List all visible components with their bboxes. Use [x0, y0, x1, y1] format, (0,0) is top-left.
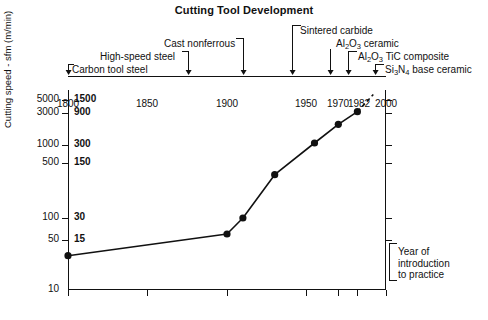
x-label-1982: 1982: [348, 98, 370, 109]
leader-stem-cast-nonferrous: [243, 38, 244, 70]
x-label-1970: 1970: [327, 98, 349, 109]
y-axis-title: Cutting speed - sfm (m/min): [2, 0, 13, 128]
chart-title: Cutting Tool Development: [0, 4, 488, 16]
y-tick-right-1000: [386, 145, 392, 146]
callout-al2o3-tic-o: O: [371, 51, 379, 62]
y-label-mmin-150: 150: [74, 156, 91, 167]
x-axis-note-line-3: to practice: [398, 269, 450, 281]
y-tick-3000: [62, 113, 68, 114]
arrow-cast-nonferrous: [241, 70, 247, 75]
arrow-sintered-carbide: [290, 70, 296, 75]
leader-stem-al2o3-tic: [348, 51, 349, 70]
x-tick-1800: [68, 290, 69, 296]
callout-al2o3-ceramic-o: O: [349, 38, 357, 49]
callout-al2o3-tic-composite: Al2O3 TiC composite: [358, 51, 449, 63]
chart-figure: Cutting Tool Development Carbon tool ste…: [0, 0, 488, 320]
subscript-two: 2: [345, 42, 349, 51]
x-label-1900: 1900: [216, 98, 238, 109]
annotation-axis-line: [68, 76, 386, 77]
y-tick-right-100: [386, 218, 392, 219]
callout-si3n4-base-ceramic: Si3N4 base ceramic: [385, 64, 472, 76]
x-tick-1982: [357, 290, 358, 296]
y-tick-right-3000: [386, 113, 392, 114]
y-label-mmin-30: 30: [74, 211, 85, 222]
y-tick-right-50: [386, 240, 392, 241]
x-label-1800: 1800: [57, 98, 79, 109]
subscript-four: 4: [405, 68, 409, 77]
callout-high-speed-steel: High-speed steel: [100, 51, 175, 62]
leader-elbow-al2o3-tic: [348, 51, 357, 52]
callout-al2o3-tic-end: TiC composite: [383, 51, 449, 62]
x-axis-note-bracket: [389, 243, 397, 281]
callout-cast-nonferrous-text: Cast nonferrous: [164, 38, 235, 49]
leader-stem-high-speed-steel: [188, 51, 189, 70]
x-label-2000: 2000: [375, 98, 397, 109]
y-tick-1000: [62, 145, 68, 146]
x-label-1950: 1950: [295, 98, 317, 109]
callout-al2o3-ceramic-end: ceramic: [361, 38, 399, 49]
y-label-sfm-1000: 1000: [37, 138, 59, 149]
arrow-al2o3-ceramic: [328, 70, 334, 75]
arrow-al2o3-tic: [346, 70, 352, 75]
y-tick-50: [62, 240, 68, 241]
y-label-sfm-500: 500: [42, 156, 59, 167]
callout-sintered-carbide-text: Sintered carbide: [300, 25, 373, 36]
x-axis-note: Year of introduction to practice: [398, 246, 450, 281]
x-tick-1950: [306, 290, 307, 296]
y-tick-500: [62, 163, 68, 164]
leader-elbow-si3n4: [375, 64, 384, 65]
x-tick-1970: [338, 290, 339, 296]
callout-al2o3-ceramic: Al2O3 ceramic: [336, 38, 399, 50]
y-tick-right-500: [386, 163, 392, 164]
callout-si3n4-si: Si: [385, 64, 394, 75]
callout-carbon-tool-steel: Carbon tool steel: [72, 64, 148, 75]
y-label-sfm-5000: 5000: [37, 93, 59, 104]
x-tick-1900: [227, 290, 228, 296]
callout-sintered-carbide: Sintered carbide: [300, 25, 373, 36]
y-label-mmin-300: 300: [74, 138, 91, 149]
y-label-sfm-50: 50: [48, 233, 59, 244]
callout-high-speed-steel-text: High-speed steel: [100, 51, 175, 62]
callout-al2o3-ceramic-al: Al: [336, 38, 345, 49]
x-tick-1850: [147, 290, 148, 296]
x-label-1850: 1850: [136, 98, 158, 109]
callout-cast-nonferrous: Cast nonferrous: [164, 38, 235, 49]
arrow-si3n4: [373, 70, 379, 75]
callout-al2o3-tic-al: Al: [358, 51, 367, 62]
callout-carbon-tool-steel-text: Carbon tool steel: [72, 64, 148, 75]
arrow-high-speed-steel: [186, 70, 192, 75]
x-axis-note-line-1: Year of: [398, 246, 450, 258]
leader-elbow-cast-nonferrous: [236, 38, 244, 39]
leader-stem-sintered-carbide: [292, 25, 293, 70]
callout-si3n4-end: base ceramic: [409, 64, 471, 75]
subscript-three-b: 3: [379, 55, 383, 64]
subscript-three: 3: [357, 42, 361, 51]
x-axis-note-line-2: introduction: [398, 258, 450, 270]
y-label-sfm-100: 100: [42, 211, 59, 222]
leader-stem-al2o3-ceramic: [330, 49, 331, 70]
y-label-sfm-3000: 3000: [37, 106, 59, 117]
subscript-two-b: 2: [367, 55, 371, 64]
y-label-mmin-15: 15: [74, 233, 85, 244]
x-tick-2000: [386, 290, 387, 296]
plot-area: 5000 1500 3000 900 1000 300 500 150 100 …: [68, 90, 386, 290]
leader-elbow-sintered-carbide: [292, 25, 301, 26]
y-tick-100: [62, 218, 68, 219]
arrow-carbon-tool-steel: [66, 70, 72, 75]
subscript-three-c: 3: [394, 68, 398, 77]
y-label-sfm-10: 10: [48, 283, 59, 294]
